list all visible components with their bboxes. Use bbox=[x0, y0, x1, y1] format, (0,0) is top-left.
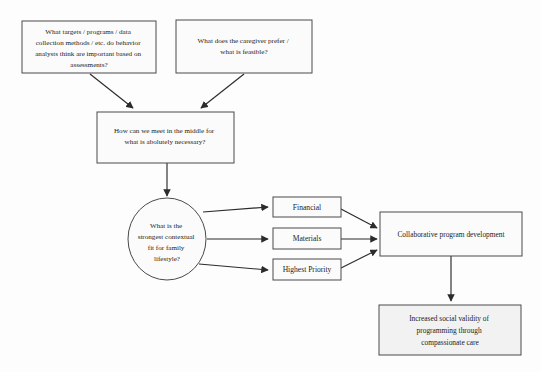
node-financial[interactable]: Financial bbox=[273, 197, 341, 217]
node-materials[interactable]: Materials bbox=[273, 228, 341, 249]
node-label: Financial bbox=[293, 203, 321, 212]
edge-contextual-fit-to-highest-priority bbox=[199, 264, 268, 270]
node-question-caregiver[interactable]: What does the caregiver prefer / what is… bbox=[176, 20, 312, 73]
node-label: Highest Priority bbox=[283, 265, 332, 274]
edge-behavior-analysts-to-meet-in-middle bbox=[90, 74, 133, 108]
edge-financial-to-collaborative-program bbox=[341, 209, 377, 228]
node-social-validity[interactable]: Increased social validity of programming… bbox=[379, 305, 521, 355]
edge-caregiver-to-meet-in-middle bbox=[201, 74, 244, 108]
node-box bbox=[176, 20, 312, 73]
node-collaborative-program[interactable]: Collaborative program development bbox=[380, 212, 522, 256]
node-highest-priority[interactable]: Highest Priority bbox=[273, 259, 341, 280]
node-question-behavior-analysts[interactable]: What targets / programs / data collectio… bbox=[22, 21, 156, 73]
edge-contextual-fit-to-financial bbox=[203, 207, 268, 212]
flowchart-svg: What targets / programs / data collectio… bbox=[0, 0, 541, 372]
node-label: Materials bbox=[293, 234, 322, 243]
edge-highest-priority-to-collaborative-program bbox=[341, 250, 377, 268]
node-label: Collaborative program development bbox=[397, 230, 505, 239]
flowchart-canvas: What targets / programs / data collectio… bbox=[0, 0, 541, 372]
node-meet-in-middle[interactable]: How can we meet in the middle for what i… bbox=[97, 112, 234, 163]
node-contextual-fit[interactable]: What is the strongest contextual fit for… bbox=[128, 198, 206, 280]
node-label: Increased social validity of programming… bbox=[409, 314, 491, 347]
